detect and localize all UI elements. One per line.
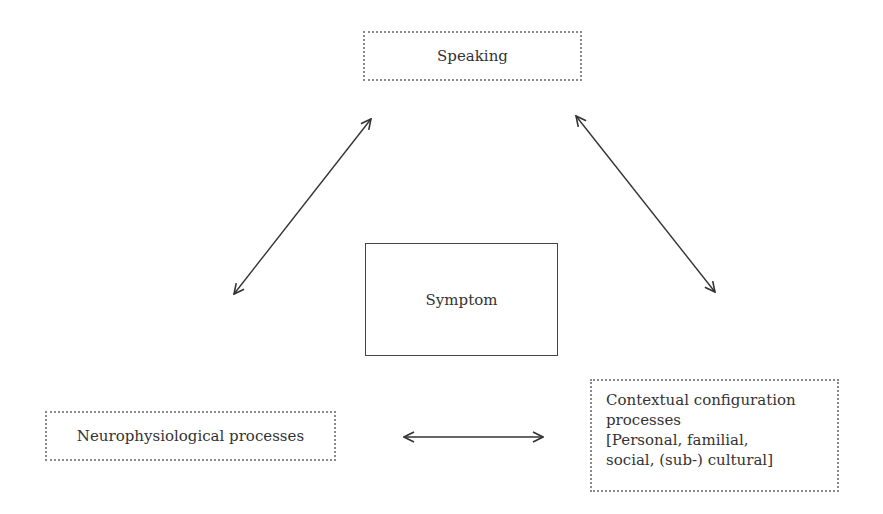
arrow-speaking-neuro [234, 119, 371, 294]
symptom-label: Symptom [426, 291, 498, 309]
speaking-node: Speaking [363, 31, 582, 81]
context-line-2: processes [606, 410, 827, 430]
context-line-1: Contextual configuration [606, 390, 827, 410]
neurophysiological-processes-node: Neurophysiological processes [45, 411, 336, 461]
symptom-node: Symptom [365, 243, 558, 356]
neurophysiological-processes-label: Neurophysiological processes [77, 427, 304, 445]
context-line-4: social, (sub-) cultural] [606, 450, 827, 470]
arrow-speaking-context [576, 116, 715, 292]
speaking-label: Speaking [437, 47, 508, 65]
contextual-configuration-node: Contextual configuration processes [Pers… [590, 379, 839, 492]
context-line-3: [Personal, familial, [606, 430, 827, 450]
